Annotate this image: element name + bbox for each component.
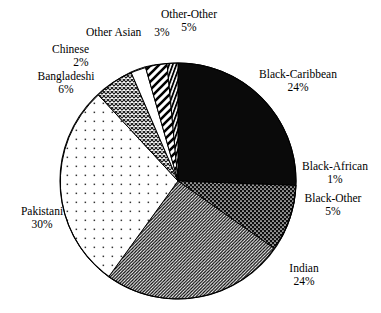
slice-label-indian: Indian 24%	[262, 262, 346, 288]
slice-label-black-african: Black-African 1%	[288, 160, 381, 186]
slice-label-chinese: Chinese 2%	[52, 43, 138, 69]
slice-label-indian-name: Indian	[262, 262, 346, 275]
slice-label-black-caribbean: Black-Caribbean 24%	[238, 68, 358, 94]
slice-label-other-asian-name: Other Asian	[86, 26, 141, 39]
slice-label-other-asian-value: 3%	[154, 26, 169, 39]
slice-label-black-caribbean-name: Black-Caribbean	[238, 68, 358, 81]
slice-label-chinese-value: 2%	[52, 56, 110, 69]
slice-label-black-other-name: Black-Other	[288, 192, 378, 205]
slice-label-black-caribbean-value: 24%	[238, 81, 358, 94]
slice-label-pakistani-value: 30%	[2, 218, 82, 231]
slice-label-bangladeshi: Bangladeshi 6%	[20, 70, 112, 96]
slice-label-black-other-value: 5%	[288, 205, 378, 218]
slice-label-other-other-name: Other-Other	[141, 8, 237, 21]
slice-label-other-asian: Other Asian 3%	[86, 26, 182, 39]
slice-label-black-african-name: Black-African	[288, 160, 381, 173]
slice-label-indian-value: 24%	[262, 275, 346, 288]
pie-slices	[60, 63, 296, 299]
slice-label-black-other: Black-Other 5%	[288, 192, 378, 218]
slice-label-black-african-value: 1%	[288, 173, 381, 186]
slice-label-pakistani: Pakistani 30%	[2, 205, 82, 231]
slice-label-pakistani-name: Pakistani	[2, 205, 82, 218]
slice-label-chinese-name: Chinese	[52, 43, 138, 56]
pie-chart: Other-Other 5% Other Asian 3% Chinese 2%…	[0, 0, 381, 313]
slice-label-bangladeshi-value: 6%	[20, 83, 112, 96]
slice-label-bangladeshi-name: Bangladeshi	[20, 70, 112, 83]
